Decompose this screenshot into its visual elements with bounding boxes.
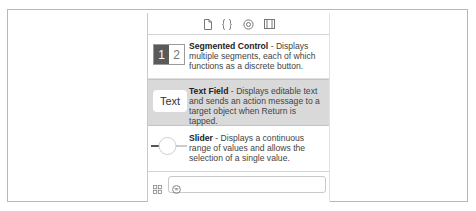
item-description: Segmented Control - Displays multiple se… <box>189 41 327 71</box>
library-panel: 1 2 Segmented Control - Displays multipl… <box>147 13 330 202</box>
segment-1: 1 <box>154 45 169 64</box>
library-item-text-field[interactable]: Text Text Field - Displays editable text… <box>148 79 329 126</box>
segmented-control-icon: 1 2 <box>153 44 185 65</box>
library-item-slider[interactable]: Slider - Displays a continuous range of … <box>148 126 329 171</box>
object-library-icon[interactable] <box>243 19 253 29</box>
quick-help-icon[interactable] <box>222 19 232 29</box>
filter-icon[interactable] <box>172 180 181 189</box>
item-title: Slider <box>189 133 213 143</box>
file-inspector-icon[interactable] <box>203 19 213 29</box>
item-description: Text Field - Displays editable text and … <box>189 86 327 126</box>
segment-2: 2 <box>169 45 184 64</box>
item-title: Segmented Control <box>189 41 268 51</box>
library-item-segmented-control[interactable]: 1 2 Segmented Control - Displays multipl… <box>148 35 329 79</box>
item-title: Text Field <box>189 86 228 96</box>
library-filter-bar <box>148 171 329 202</box>
grid-view-icon[interactable] <box>153 180 162 189</box>
search-input[interactable] <box>184 177 322 192</box>
inspector-toolbar <box>148 13 329 35</box>
library-search-field[interactable] <box>168 176 326 193</box>
slider-icon <box>150 134 188 158</box>
media-library-icon[interactable] <box>264 19 274 29</box>
item-description: Slider - Displays a continuous range of … <box>189 133 327 163</box>
text-field-icon: Text <box>153 90 187 112</box>
